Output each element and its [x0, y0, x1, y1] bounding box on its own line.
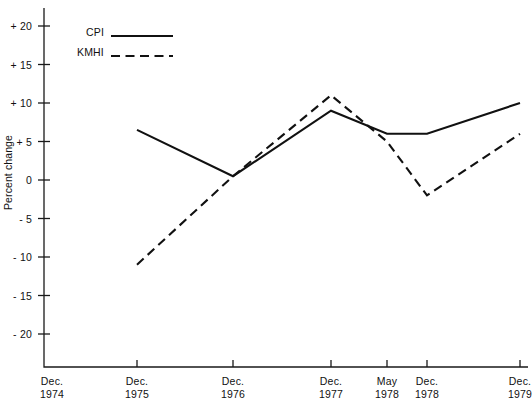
- x-tick-label-year: 1977: [319, 388, 343, 401]
- x-tick-label: Dec.1978: [415, 375, 439, 400]
- x-tick-label: Dec.1977: [319, 375, 343, 400]
- x-tick-label-month: Dec.: [40, 375, 64, 388]
- x-tick-label-month: Dec.: [508, 375, 532, 388]
- y-tick-label: - 5: [0, 213, 32, 225]
- x-tick-label-year: 1978: [415, 388, 439, 401]
- x-tick-label-year: 1976: [221, 388, 245, 401]
- x-tick-label: Dec.1974: [40, 375, 64, 400]
- x-tick-label-year: 1975: [125, 388, 149, 401]
- y-tick-label: + 20: [0, 20, 32, 32]
- x-tick-label: Dec.1975: [125, 375, 149, 400]
- x-tick-label-year: 1978: [375, 388, 399, 401]
- x-tick-label-year: 1974: [40, 388, 64, 401]
- y-tick-label: - 15: [0, 290, 32, 302]
- x-tick-label-year: 1979: [508, 388, 532, 401]
- x-tick-label-month: Dec.: [125, 375, 149, 388]
- x-tick-label-month: May: [375, 375, 399, 388]
- x-axis-ticks: [137, 360, 520, 367]
- series-line-kmhi: [137, 95, 520, 264]
- x-tick-label: Dec.1979: [508, 375, 532, 400]
- series-line-cpi: [137, 103, 520, 176]
- x-tick-label: Dec.1976: [221, 375, 245, 400]
- plot-area: [0, 0, 532, 409]
- x-tick-label-month: Dec.: [415, 375, 439, 388]
- axes: [44, 8, 528, 367]
- x-tick-label-month: Dec.: [221, 375, 245, 388]
- x-tick-label-month: Dec.: [319, 375, 343, 388]
- y-tick-label: 0: [0, 174, 32, 186]
- line-chart: Percent change CPI KMHI + 20+ 15+ 10+ 50…: [0, 0, 532, 409]
- y-tick-label: - 10: [0, 251, 32, 263]
- y-tick-label: - 20: [0, 328, 32, 340]
- y-tick-label: + 5: [0, 136, 32, 148]
- axis-lines: [44, 8, 528, 367]
- y-tick-label: + 10: [0, 97, 32, 109]
- y-tick-label: + 15: [0, 59, 32, 71]
- x-tick-label: May1978: [375, 375, 399, 400]
